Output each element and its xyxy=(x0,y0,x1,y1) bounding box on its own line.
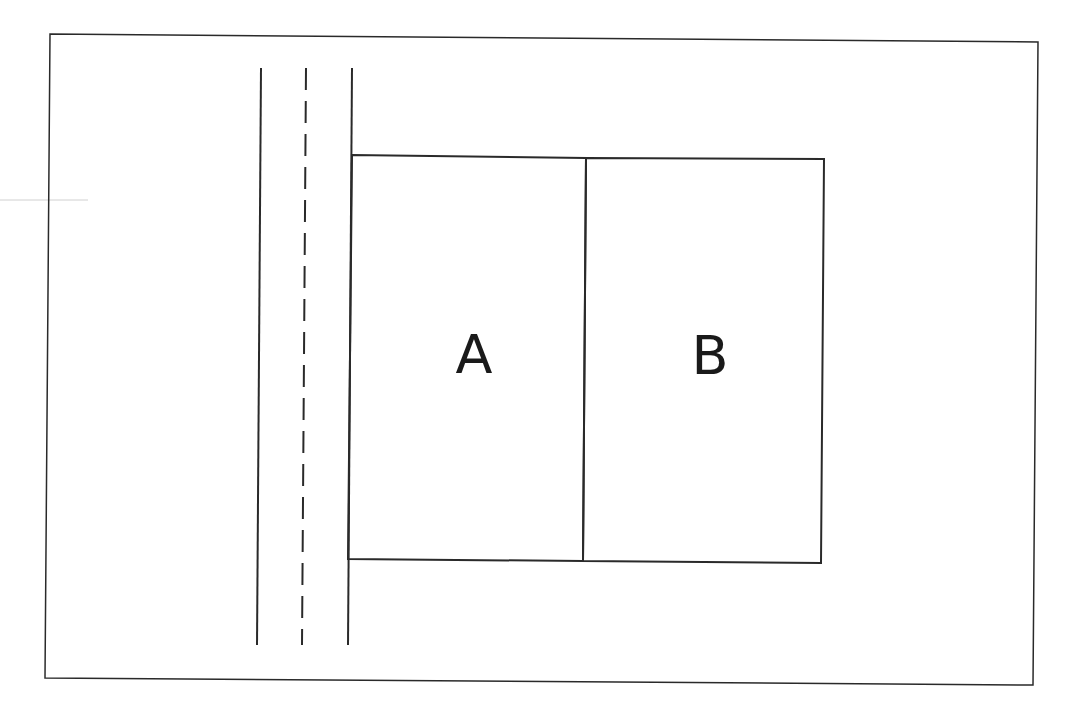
outer-frame xyxy=(45,34,1038,685)
lot-a-label: A xyxy=(456,328,493,382)
lots xyxy=(348,155,824,563)
road-center-line xyxy=(302,68,306,645)
road xyxy=(257,68,352,645)
site-plan-diagram xyxy=(0,0,1080,718)
road-left-edge xyxy=(257,68,261,645)
lot-b-label: B xyxy=(691,329,728,383)
